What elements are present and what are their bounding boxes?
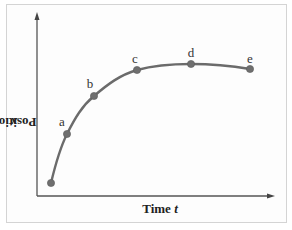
position-curve [51, 64, 250, 183]
point-label-e: e [247, 51, 253, 67]
chart-plot [0, 0, 292, 230]
x-axis-label-word: Time [142, 201, 171, 216]
data-point-d [187, 60, 194, 67]
y-axis-label: Position x [2, 77, 26, 167]
y-axis-label-var: x [11, 114, 18, 130]
x-axis-label-var: t [174, 201, 178, 216]
data-point-start [47, 179, 54, 186]
point-label-d: d [188, 45, 195, 61]
y-axis-label-word: Position [0, 114, 36, 130]
point-label-a: a [59, 114, 65, 130]
point-label-c: c [132, 51, 138, 67]
data-point-a [63, 130, 70, 137]
data-point-b [90, 92, 97, 99]
y-axis-arrow-icon [35, 12, 40, 20]
point-label-b: b [87, 76, 94, 92]
x-axis-arrow-icon [267, 194, 275, 199]
x-axis-label: Time t [120, 201, 200, 217]
data-point-c [133, 66, 140, 73]
